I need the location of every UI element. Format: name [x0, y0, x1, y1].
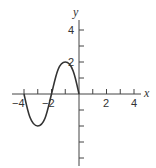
y-axis-label: y — [72, 5, 79, 19]
y-tick-label: 2 — [68, 56, 74, 68]
x-tick-label: −2 — [42, 97, 55, 109]
function-graph: y x −4 −2 2 4 4 2 — [0, 0, 156, 168]
x-tick-label: 2 — [103, 97, 109, 109]
y-tick-label: 4 — [68, 24, 74, 36]
x-tick-label: −4 — [12, 97, 25, 109]
x-axis-label: x — [143, 86, 150, 100]
x-tick-label: 4 — [131, 97, 137, 109]
